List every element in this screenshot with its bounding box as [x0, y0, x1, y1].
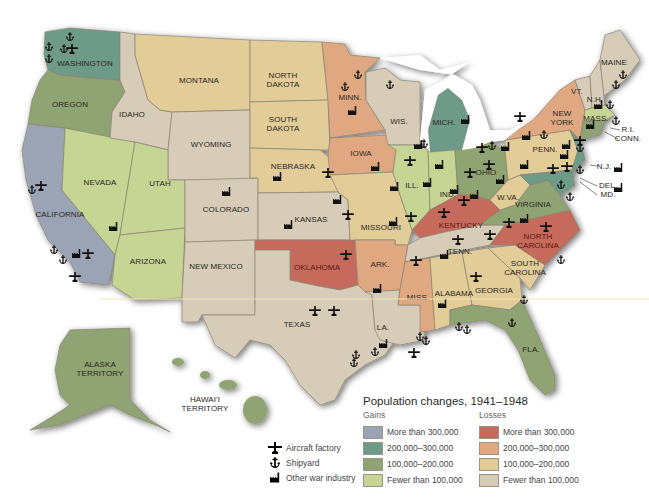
svg-text:MASS.: MASS. [583, 114, 608, 123]
factory-icon [268, 472, 282, 484]
svg-text:TENN.: TENN. [448, 247, 473, 256]
svg-text:CALIFORNIA: CALIFORNIA [35, 210, 85, 219]
svg-text:MISS.: MISS. [407, 293, 429, 302]
svg-text:MICH.: MICH. [432, 118, 455, 127]
shipyard-anchor-icon [566, 192, 574, 201]
svg-text:LA.: LA. [377, 323, 389, 332]
svg-text:CAROLINA: CAROLINA [504, 268, 546, 277]
legend-item: More than 300,000 [479, 424, 589, 440]
svg-text:ALASKA: ALASKA [84, 360, 116, 369]
population-legend: Population changes, 1941–1948 Gains More… [363, 395, 649, 488]
aircraft-factory-icon [408, 348, 420, 358]
svg-text:UTAH: UTAH [149, 179, 171, 188]
svg-text:VT.: VT. [571, 87, 583, 96]
svg-text:OHIO: OHIO [476, 168, 497, 177]
svg-text:WIS.: WIS. [390, 117, 408, 126]
factory-icon [614, 163, 622, 172]
aircraft-factory-icon [514, 112, 526, 122]
svg-text:MAINE: MAINE [601, 58, 627, 67]
svg-text:DAKOTA: DAKOTA [267, 80, 300, 89]
svg-text:MINN.: MINN. [338, 93, 361, 102]
shipyard-anchor-icon [557, 255, 565, 264]
state-montana[interactable] [135, 34, 250, 112]
svg-text:CONN.: CONN. [615, 134, 641, 143]
legend-losses: Losses More than 300,000 200,000–300,000… [479, 410, 589, 488]
legend-swatch [363, 426, 383, 439]
svg-text:KANSAS: KANSAS [294, 215, 327, 224]
legend-item: Fewer than 100,000 [363, 472, 473, 488]
legend-item: 100,000–200,000 [363, 456, 473, 472]
legend-swatch [479, 442, 499, 455]
svg-text:TERRITORY: TERRITORY [182, 404, 229, 413]
svg-text:KENTUCKY: KENTUCKY [439, 221, 484, 230]
symbol-key: Aircraft factory Shipyard Other war indu… [268, 440, 355, 485]
svg-text:GEORGIA: GEORGIA [475, 286, 514, 295]
svg-text:YORK: YORK [550, 118, 574, 127]
legend-swatch [363, 458, 383, 471]
svg-text:SOUTH: SOUTH [511, 259, 540, 268]
legend-item: 200,000–300,000 [479, 440, 589, 456]
hawaii-territory[interactable] [172, 358, 267, 424]
svg-text:TEXAS: TEXAS [284, 320, 311, 329]
legend-swatch [363, 442, 383, 455]
svg-text:N.H.: N.H. [587, 95, 603, 104]
state-new-mexico[interactable] [182, 240, 255, 322]
state-maine[interactable] [600, 30, 640, 105]
svg-text:MD.: MD. [601, 190, 616, 199]
legend-item: 200,000–300,000 [363, 440, 473, 456]
svg-text:ARIZONA: ARIZONA [130, 257, 167, 266]
legend-item: More than 300,000 [363, 424, 473, 440]
svg-text:WYOMING: WYOMING [191, 140, 232, 149]
svg-text:R.I.: R.I. [622, 125, 635, 134]
legend-losses-heading: Losses [479, 410, 589, 420]
svg-text:NEW: NEW [553, 109, 572, 118]
svg-text:WASHINGTON: WASHINGTON [57, 59, 113, 68]
legend-swatch [479, 474, 499, 487]
svg-text:PENN.: PENN. [533, 145, 558, 154]
shipyard-anchor-icon [612, 116, 620, 125]
legend-swatch [479, 426, 499, 439]
legend-gains-heading: Gains [363, 410, 473, 420]
key-item-aircraft: Aircraft factory [268, 440, 355, 455]
svg-text:HAWAI'I: HAWAI'I [190, 395, 220, 404]
svg-text:IDAHO: IDAHO [119, 110, 145, 119]
key-item-other-industry: Other war industry [268, 470, 355, 485]
svg-text:OKLAHOMA: OKLAHOMA [294, 263, 341, 272]
svg-text:SOUTH: SOUTH [269, 115, 298, 124]
svg-text:NORTH: NORTH [269, 71, 298, 80]
svg-text:CAROLINA: CAROLINA [517, 241, 559, 250]
svg-text:TERRITORY: TERRITORY [77, 369, 124, 378]
state-connecticut[interactable] [580, 120, 605, 140]
legend-swatch [363, 474, 383, 487]
state-washington[interactable] [44, 28, 120, 80]
legend-item: 100,000–200,000 [479, 456, 589, 472]
svg-text:DAKOTA: DAKOTA [267, 124, 300, 133]
legend-item: Fewer than 100,000 [479, 472, 589, 488]
key-item-shipyard: Shipyard [268, 455, 355, 470]
svg-text:NEBRASKA: NEBRASKA [271, 162, 316, 171]
alaska-territory[interactable] [30, 328, 170, 432]
svg-text:W.VA.: W.VA. [497, 193, 519, 202]
svg-text:NEVADA: NEVADA [84, 178, 117, 187]
svg-text:IOWA: IOWA [350, 149, 372, 158]
svg-text:COLORADO: COLORADO [203, 205, 250, 214]
shipyard-anchor-icon [268, 457, 282, 469]
svg-text:ILL.: ILL. [405, 181, 419, 190]
legend-gains: Gains More than 300,000 200,000–300,000 … [363, 410, 473, 488]
svg-text:OREGON: OREGON [52, 100, 88, 109]
svg-text:ALABAMA: ALABAMA [435, 289, 474, 298]
legend-swatch [479, 458, 499, 471]
svg-text:MONTANA: MONTANA [179, 76, 220, 85]
svg-text:N.J.: N.J. [597, 162, 612, 171]
svg-text:VIRGINIA: VIRGINIA [515, 200, 551, 209]
svg-text:FLA.: FLA. [522, 345, 539, 354]
svg-text:NORTH: NORTH [524, 232, 553, 241]
state-wisconsin[interactable] [366, 68, 420, 145]
legend-title: Population changes, 1941–1948 [363, 395, 649, 407]
svg-text:NEW MEXICO: NEW MEXICO [189, 262, 242, 271]
shipyard-anchor-icon [463, 325, 471, 334]
aircraft-factory-icon [268, 442, 282, 454]
svg-text:ARK.: ARK. [370, 260, 389, 269]
